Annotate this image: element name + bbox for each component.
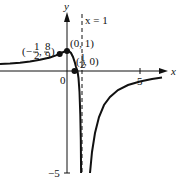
origin-label: 0 — [60, 74, 66, 86]
label-x-intercept: ( 1 2 , 0) — [76, 51, 99, 70]
y-axis-arrow-icon — [64, 12, 70, 22]
y-axis-label: y — [63, 0, 69, 12]
asymptote-label: x = 1 — [85, 14, 108, 26]
svg-text:,: , — [39, 45, 42, 57]
curve-left-branch — [0, 51, 81, 173]
graph: x y 5 −5 x = 1 (− 1 2 , 8 9 ) (0, 1) ( 1… — [0, 0, 182, 180]
svg-text:, 0): , 0) — [84, 55, 99, 68]
label-local-extremum: (− 1 2 , 8 9 ) — [22, 40, 55, 61]
x-axis-label: x — [170, 65, 176, 77]
label-y-intercept: (0, 1) — [70, 37, 94, 50]
point-x-intercept — [72, 68, 78, 74]
tick-label-y-neg5: −5 — [48, 167, 60, 179]
point-local-extremum — [57, 51, 63, 57]
x-axis-arrow-icon — [159, 68, 168, 74]
curve-right-branch — [90, 78, 162, 174]
svg-text:(−: (− — [22, 45, 32, 58]
svg-text:): ) — [51, 45, 55, 58]
